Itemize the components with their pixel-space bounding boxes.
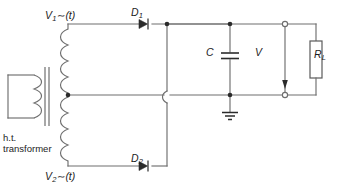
label-source-v2: V2∼(t): [45, 170, 75, 184]
label-v1-argument: (t): [65, 9, 75, 21]
capacitor-c: [221, 24, 239, 95]
label-v2-symbol: V: [45, 170, 52, 182]
label-d2-symbol: D: [131, 152, 139, 164]
label-rl-subscript: L: [322, 53, 326, 62]
label-diode-d1: D1: [131, 6, 143, 20]
transformer-primary: [8, 75, 42, 118]
voltage-terminal-top: [282, 21, 287, 26]
label-c-symbol: C: [206, 46, 214, 58]
label-d1-subscript: 1: [139, 11, 143, 20]
wire-hop-arc: [163, 91, 168, 103]
secondary-upper-windings: [61, 29, 69, 93]
circuit-schematic-canvas: [0, 0, 339, 190]
bottom-rectifier-branch: [68, 161, 167, 172]
junction-dots: [66, 22, 233, 98]
earth-ground: [222, 95, 238, 120]
voltage-terminal-bottom: [282, 92, 287, 97]
transformer-core: [45, 67, 49, 126]
circuit-diagram: V1∼(t) D1 V2∼(t) D2 C V RL h.t. transfor…: [0, 0, 339, 190]
label-load-resistor-rl: RL: [314, 48, 326, 62]
centre-tap-rail: [68, 93, 316, 97]
diode-d1-anode-triangle: [139, 20, 148, 29]
label-capacitor-c: C: [206, 46, 214, 58]
label-d1-symbol: D: [131, 6, 139, 18]
node-top-rail-capacitor: [228, 22, 233, 27]
label-v1-symbol: V: [45, 9, 52, 21]
label-v-symbol: V: [255, 46, 262, 58]
label-transformer: h.t. transformer: [3, 133, 52, 155]
node-centre-tap: [66, 93, 71, 98]
label-d2-subscript: 2: [139, 157, 143, 166]
secondary-lower-windings: [61, 97, 69, 161]
voltage-arrowhead: [282, 80, 288, 89]
label-v2-argument: (t): [65, 170, 75, 182]
node-top-rail-riser: [165, 22, 170, 27]
label-rl-symbol: R: [314, 48, 322, 60]
label-output-voltage-v: V: [255, 46, 262, 58]
primary-coil-windings: [34, 75, 42, 118]
label-transformer-line2: transformer: [3, 144, 52, 155]
output-voltage-v: [282, 21, 288, 97]
label-source-v1: V1∼(t): [45, 9, 75, 23]
node-bottom-rail-capacitor: [228, 93, 233, 98]
label-diode-d2: D2: [131, 152, 143, 166]
